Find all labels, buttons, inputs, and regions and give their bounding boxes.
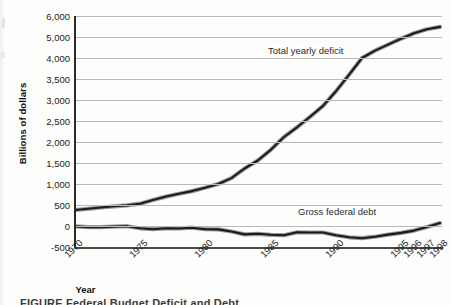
plot-area	[74, 16, 442, 248]
scan-edge-artifact	[0, 0, 7, 305]
annotation-total-yearly-deficit: Total yearly deficit	[266, 45, 346, 56]
y-tick-label: 5,000	[16, 32, 70, 43]
y-tick-label: 3,000	[16, 95, 70, 106]
scan-speckle	[2, 18, 5, 28]
series-lines	[74, 16, 442, 248]
series-total-yearly-deficit-shadow	[75, 27, 440, 210]
x-axis-title-text: Year	[75, 284, 95, 295]
gridline	[74, 163, 442, 164]
y-axis-line	[74, 16, 76, 249]
gridline	[74, 100, 442, 101]
annotation-gross-federal-debt: Gross federal debt	[296, 206, 378, 217]
series-total-yearly-deficit	[75, 27, 440, 210]
gridline	[74, 121, 442, 122]
figure-caption: FIGURE Federal Budget Deficit and Debt	[20, 297, 440, 305]
y-tick-label: 0	[16, 221, 70, 232]
y-tick-label: 2,000	[16, 137, 70, 148]
gridline	[74, 79, 442, 80]
scan-speckle	[1, 52, 5, 58]
gridline	[74, 184, 442, 185]
y-tick-label: 500	[16, 200, 70, 211]
gridline	[74, 37, 442, 38]
gridline	[74, 226, 442, 227]
gridline	[74, 142, 442, 143]
y-tick-label: 2,500	[16, 116, 70, 127]
y-tick-label: 6,000	[16, 11, 70, 22]
gridline	[74, 58, 442, 59]
figure-container: Billions of dollars 6,000 5,000 4,000 3,…	[0, 0, 451, 305]
y-tick-label: 1,000	[16, 179, 70, 190]
y-tick-label: 3,500	[16, 74, 70, 85]
gridline	[74, 205, 442, 206]
y-tick-label: 4,000	[16, 53, 70, 64]
gridline	[74, 16, 442, 17]
y-tick-label: 1,500	[16, 158, 70, 169]
x-axis-title: Year	[0, 284, 451, 295]
